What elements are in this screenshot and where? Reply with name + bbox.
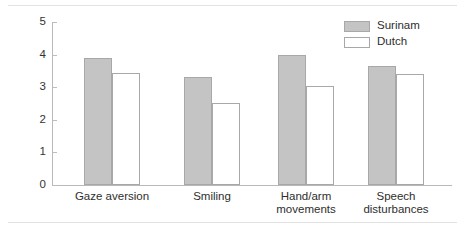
bar-surinam[interactable]: [368, 66, 396, 185]
legend-label-dutch: Dutch: [377, 36, 407, 48]
x-axis-baseline: [52, 185, 452, 186]
bar-surinam[interactable]: [184, 77, 212, 185]
legend-item-dutch[interactable]: Dutch: [344, 35, 420, 49]
bar-dutch[interactable]: [112, 73, 140, 185]
bar-surinam[interactable]: [84, 58, 112, 185]
bar-dutch[interactable]: [212, 103, 240, 185]
legend-item-surinam[interactable]: Surinam: [344, 19, 420, 33]
bar-group: [84, 22, 140, 185]
y-axis-tick-label: 5: [40, 16, 46, 28]
bar-chart-figure: 012345 Gaze aversionSmilingHand/arm move…: [0, 0, 465, 230]
bar-dutch[interactable]: [306, 86, 334, 185]
bar-group: [184, 22, 240, 185]
y-axis-tick-mark: [52, 185, 57, 186]
bar-dutch[interactable]: [396, 74, 424, 185]
bottom-divider-rule: [8, 222, 457, 223]
legend-swatch-surinam: [344, 21, 370, 32]
y-axis-tick-label: 1: [40, 146, 46, 158]
chart-legend: Surinam Dutch: [344, 19, 420, 51]
x-axis-label: Speech disturbances: [328, 190, 464, 216]
top-divider-rule: [8, 5, 457, 6]
y-axis-tick-label: 3: [40, 81, 46, 93]
legend-label-surinam: Surinam: [377, 20, 420, 32]
bar-group: [278, 22, 334, 185]
bar-surinam[interactable]: [278, 55, 306, 185]
y-axis-tick-label: 4: [40, 49, 46, 61]
y-axis-tick-label: 0: [40, 179, 46, 191]
y-axis-tick-label: 2: [40, 114, 46, 126]
legend-swatch-dutch: [344, 37, 370, 48]
